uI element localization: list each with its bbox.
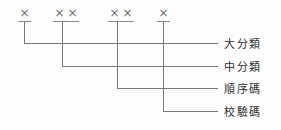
code-glyph-row: × (157, 6, 170, 19)
code-group-underline (53, 21, 79, 22)
leader-line-horizontal-check (163, 111, 218, 112)
code-group-major: × (18, 6, 31, 22)
code-group-sequence: × × (108, 6, 134, 22)
code-structure-diagram: × × × × × × 大分類 中分類 順序碼 校驗碼 (0, 0, 281, 130)
leader-line-vertical-middle (62, 21, 63, 66)
leader-line-vertical-major (24, 21, 25, 43)
code-group-check: × (157, 6, 170, 22)
label-middle-category: 中分類 (224, 58, 262, 74)
leader-line-horizontal-sequence (117, 88, 218, 89)
label-sequence-code: 順序碼 (224, 80, 262, 96)
leader-line-vertical-sequence (117, 21, 118, 88)
code-glyph: × (157, 7, 170, 19)
code-group-underline (108, 21, 134, 22)
code-glyph-row: × × (53, 6, 79, 19)
code-glyph-row: × (18, 6, 31, 19)
leader-line-horizontal-major (24, 43, 218, 44)
leader-line-horizontal-middle (62, 66, 218, 67)
label-major-category: 大分類 (224, 35, 262, 51)
code-glyph: × (66, 7, 79, 19)
code-glyph: × (53, 7, 66, 19)
code-glyph: × (18, 7, 31, 19)
label-check-code: 校驗碼 (224, 103, 262, 119)
code-glyph: × (121, 7, 134, 19)
code-glyph-row: × × (108, 6, 134, 19)
leader-line-vertical-check (163, 21, 164, 111)
code-glyph: × (108, 7, 121, 19)
code-group-middle: × × (53, 6, 79, 22)
